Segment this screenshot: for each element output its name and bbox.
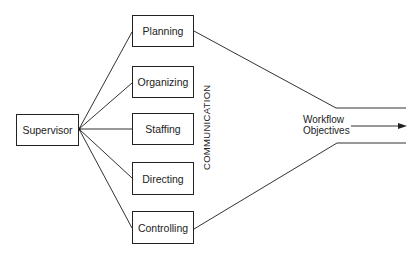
function-label: Directing (142, 173, 183, 185)
function-label: Controlling (138, 222, 188, 234)
funnel-bottom-line (194, 143, 406, 229)
function-box-controlling: Controlling (132, 211, 194, 244)
edge-supervisor-organizing (79, 83, 132, 129)
function-label: Organizing (138, 76, 189, 88)
funnel-top-line (194, 31, 406, 108)
function-label: Planning (143, 25, 184, 37)
edge-supervisor-planning (79, 32, 132, 129)
function-box-organizing: Organizing (132, 66, 194, 98)
function-box-planning: Planning (132, 15, 194, 47)
supervisor-box: Supervisor (16, 114, 79, 146)
edge-supervisor-controlling (79, 129, 132, 228)
function-label: Staffing (145, 123, 180, 135)
communication-label: COMMUNICATION (201, 84, 212, 170)
edge-supervisor-directing (79, 129, 132, 178)
output-label-line2: Objectives (303, 125, 350, 137)
function-box-directing: Directing (132, 162, 194, 195)
supervisor-label: Supervisor (22, 124, 72, 136)
function-box-staffing: Staffing (132, 113, 194, 145)
arrow-head-icon (398, 123, 407, 129)
